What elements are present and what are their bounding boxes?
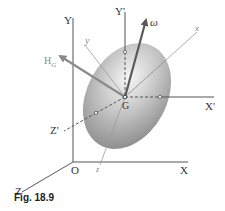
label-X: X <box>180 165 188 176</box>
label-omega: ω <box>150 17 158 28</box>
figure-caption: Fig. 18.9 <box>14 192 54 203</box>
z-axis <box>22 162 73 192</box>
label-body-y: y <box>85 36 89 46</box>
label-Y: Y <box>64 15 72 26</box>
label-Y-prime: Y' <box>115 6 125 17</box>
figure-18-9: Y Y' ω x y HG G X' Z' O z X Z Fig. 18.9 <box>0 0 225 211</box>
label-body-z: z <box>96 166 99 174</box>
label-Z-prime: Z' <box>50 125 59 136</box>
label-H-G: HG <box>44 56 56 69</box>
label-O: O <box>71 165 79 176</box>
y-prime-pierce-point <box>123 50 126 53</box>
label-body-x: x <box>195 24 199 33</box>
label-X-prime: X' <box>205 101 215 112</box>
x-prime-pierce-point <box>158 95 161 98</box>
mass-center-point <box>123 95 127 99</box>
label-G: G <box>122 101 129 111</box>
rigid-body-diagram <box>0 0 225 211</box>
label-H-subscript: G <box>51 61 56 69</box>
z-prime-pierce-point <box>94 111 97 114</box>
